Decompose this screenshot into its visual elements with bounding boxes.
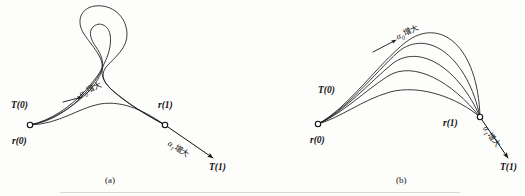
panel-a-start-node: [27, 122, 32, 127]
panel-b-alpha0-pointer: [373, 40, 396, 52]
panel-a-label-tangent-start: T(0): [11, 101, 28, 111]
panel-b-caption: (b): [396, 176, 407, 185]
panel-b-label-tangent-start: T(0): [318, 86, 335, 96]
panel-a-curve-3: [30, 6, 165, 125]
panel-b-label-point-start: r(0): [310, 136, 325, 146]
panel-b-label-tangent-end: T(1): [500, 163, 517, 173]
panel-a-label-tangent-end: T(1): [209, 163, 226, 173]
panel-a-label-point-end: r(1): [158, 101, 173, 111]
page-rule-divider: [60, 192, 460, 193]
panel-b-label-point-end: r(1): [443, 119, 458, 129]
panel-b-linework: [315, 33, 508, 158]
panel-a-label-point-start: r(0): [12, 137, 27, 147]
panel-b-curve-4: [318, 43, 480, 124]
panel-b-start-node: [315, 121, 320, 126]
panel-a-caption: (a): [105, 176, 115, 185]
figure-container: T(0) r(0) r(1) T(1) α0增大 α1增大 (a) T(0) r…: [0, 0, 525, 196]
panel-a-curve-2: [30, 24, 165, 125]
panel-a-end-node: [162, 122, 167, 127]
panel-b-end-node: [477, 114, 482, 119]
panel-a-linework: [27, 6, 213, 158]
figure-linework: [0, 0, 525, 196]
